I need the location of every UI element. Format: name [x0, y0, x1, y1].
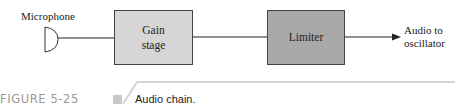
arrowhead-icon — [392, 34, 401, 41]
gain-stage-label-line2: stage — [142, 38, 166, 53]
gain-stage-label-line1: Gain — [142, 23, 166, 38]
output-label: Audio to oscillator — [404, 24, 445, 50]
caption-square-icon — [113, 95, 122, 104]
microphone-label: Microphone — [21, 10, 75, 23]
output-label-line1: Audio to — [404, 24, 445, 37]
figure-caption: Audio chain. — [135, 93, 196, 105]
figure-number: FIGURE 5-25 — [0, 92, 79, 106]
microphone-icon — [45, 27, 58, 52]
diagram-canvas: Microphone Gain stage Limiter Audio to o… — [0, 0, 465, 109]
limiter-label: Limiter — [289, 30, 324, 45]
output-label-line2: oscillator — [404, 37, 445, 50]
gain-stage-box: Gain stage — [114, 10, 193, 65]
limiter-box: Limiter — [267, 10, 345, 65]
